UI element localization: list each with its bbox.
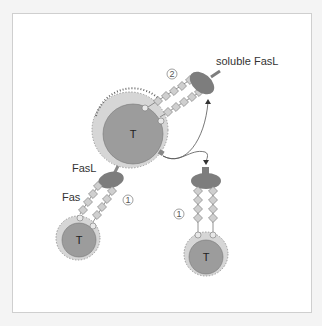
step-1-left-badge: 1 bbox=[123, 195, 133, 205]
fas-receptor-left bbox=[78, 181, 116, 222]
svg-text:1: 1 bbox=[176, 209, 181, 219]
step-1-right-badge: 1 bbox=[174, 209, 184, 219]
svg-text:2: 2 bbox=[169, 69, 174, 79]
soluble-fasl-right bbox=[191, 167, 221, 189]
bottom-right-t-cell: T bbox=[184, 232, 228, 276]
svg-text:1: 1 bbox=[125, 195, 130, 205]
bottom-left-cell-label: T bbox=[76, 234, 83, 246]
center-cell-label: T bbox=[130, 128, 137, 140]
bottom-right-cell-label: T bbox=[203, 251, 210, 263]
fas-fasl-diagram: T T FasL Fas 1 soluble FasL bbox=[0, 0, 322, 326]
fas-label: Fas bbox=[62, 191, 81, 203]
fasl-label: FasL bbox=[72, 162, 96, 174]
fas-receptor-right bbox=[193, 186, 217, 233]
soluble-fasl-label: soluble FasL bbox=[216, 55, 278, 67]
step-2-badge: 2 bbox=[167, 69, 177, 79]
